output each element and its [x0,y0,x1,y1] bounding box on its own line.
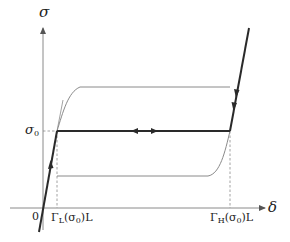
gamma-L-arg-open: (σ [64,211,76,224]
sigma0-label: σ0 [25,123,39,138]
x-axis-label: δ [268,200,277,215]
arrow-right-icon-plateau [151,128,158,134]
stress-strain-hysteresis-diagram [0,0,290,242]
upper-thin-curve [57,87,230,131]
right-elastic-branch [230,28,249,131]
arrow-up-icon-left-branch [48,160,54,169]
gamma-H-symbol: Γ [210,211,218,224]
gamma-H-subscript: H [218,216,225,225]
y-axis-label: σ [39,5,49,20]
gamma-L-arg-close: )L [81,211,93,224]
lower-thin-curve [57,131,230,176]
sigma0-subscript: 0 [34,129,39,138]
gamma-H-arg-open: (σ [225,211,237,224]
origin-label: 0 [32,211,39,222]
gamma-L-symbol: Γ [51,211,59,224]
gamma-H-arg-close: )L [242,211,254,224]
gamma-H-label: ΓH(σ0)L [210,212,253,225]
gamma-L-label: ΓL(σ0)L [51,212,92,225]
sigma0-symbol: σ [25,122,34,137]
arrow-left-icon-plateau [131,128,138,134]
